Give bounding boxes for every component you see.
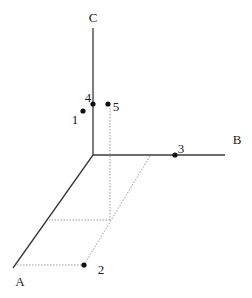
point-label-3: 3 [178, 141, 185, 156]
point-label-1: 1 [72, 112, 79, 127]
point-5 [105, 101, 110, 106]
point-1 [80, 108, 85, 113]
projection-lines [17, 108, 150, 265]
point-label-2: 2 [98, 262, 105, 277]
axis-a [13, 155, 93, 268]
point-label-4: 4 [85, 90, 92, 105]
axis-label-a: A [15, 274, 25, 289]
axis-label-b: B [233, 132, 242, 147]
point-label-5: 5 [113, 99, 120, 114]
point-2 [81, 262, 86, 267]
projection-b-slant [84, 156, 150, 265]
axis-label-c: C [89, 10, 98, 25]
diagram-canvas: A B C 1 2 3 4 5 [0, 0, 252, 298]
